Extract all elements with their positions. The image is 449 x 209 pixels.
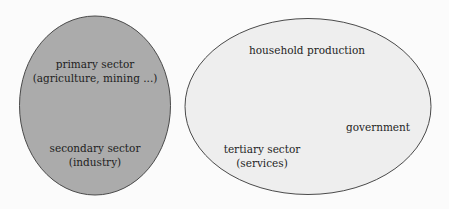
secondary-sector-examples-label: (industry) bbox=[69, 156, 121, 168]
tertiary-sector-examples-label: (services) bbox=[236, 157, 288, 169]
household-production-label: household production bbox=[249, 44, 365, 56]
market-sectors-ellipse bbox=[20, 16, 171, 195]
primary-sector-examples-label: (agriculture, mining ...) bbox=[33, 72, 158, 84]
sector-diagram: primary sector (agriculture, mining ...)… bbox=[0, 0, 449, 209]
government-label: government bbox=[346, 121, 411, 133]
secondary-sector-label: secondary sector bbox=[50, 142, 142, 154]
tertiary-sector-label: tertiary sector bbox=[224, 143, 302, 155]
primary-sector-label: primary sector bbox=[56, 58, 136, 70]
